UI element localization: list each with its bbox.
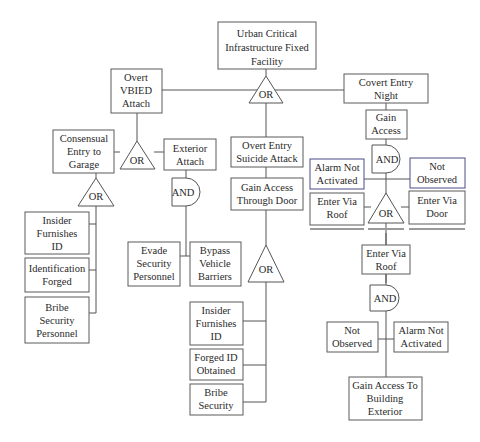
- and-gate-roof: AND: [370, 285, 399, 311]
- svg-text:Bypass: Bypass: [200, 245, 230, 256]
- svg-text:Security: Security: [40, 315, 76, 326]
- node-not-observed-upper: Not Observed: [410, 158, 465, 188]
- svg-text:Entry to: Entry to: [67, 146, 101, 157]
- and-gate-exterior: AND: [172, 178, 200, 206]
- node-exterior-attach: Exterior Attach: [164, 139, 216, 170]
- svg-text:Suicide Attack: Suicide Attack: [236, 153, 298, 164]
- node-bribe-security: Bribe Security: [190, 384, 243, 415]
- svg-text:Security: Security: [137, 258, 173, 269]
- svg-text:Infrastructure Fixed: Infrastructure Fixed: [225, 42, 309, 53]
- node-gain-access-door: Gain Access Through Door: [231, 178, 303, 210]
- node-covert-entry-night: Covert Entry Night: [344, 74, 428, 103]
- and-gate-gain-access: AND: [372, 145, 400, 173]
- or-gate-vbied: OR: [120, 141, 155, 169]
- svg-text:ID: ID: [210, 331, 221, 342]
- svg-text:Enter Via: Enter Via: [317, 196, 357, 207]
- svg-text:Facility: Facility: [251, 56, 284, 67]
- svg-text:Personnel: Personnel: [133, 271, 174, 282]
- node-gain-access-building-exterior: Gain Access To Building Exterior: [349, 377, 422, 420]
- svg-text:Access: Access: [371, 125, 401, 136]
- svg-text:OR: OR: [259, 89, 274, 100]
- svg-text:Security: Security: [199, 400, 235, 411]
- svg-text:Observed: Observed: [332, 338, 373, 349]
- node-insider-furnishes-id-middle: Insider Furnishes ID: [190, 302, 243, 345]
- svg-text:Not: Not: [344, 325, 360, 336]
- node-gain-access: Gain Access: [366, 110, 407, 139]
- node-overt-entry-suicide: Overt Entry Suicide Attack: [231, 137, 303, 167]
- svg-text:Observed: Observed: [417, 174, 458, 185]
- node-bypass-vehicle-barriers: Bypass Vehicle Barriers: [190, 242, 241, 286]
- node-consensual-entry: Consensual Entry to Garage: [53, 130, 114, 173]
- svg-text:Alarm Not: Alarm Not: [398, 325, 443, 336]
- svg-text:Not: Not: [429, 161, 445, 172]
- svg-text:Identification: Identification: [29, 263, 86, 274]
- svg-text:AND: AND: [376, 154, 399, 165]
- svg-text:Exterior: Exterior: [173, 143, 208, 154]
- svg-text:Activated: Activated: [317, 175, 359, 186]
- or-gate-enter: OR: [368, 193, 404, 223]
- node-identification-forged: Identification Forged: [25, 258, 89, 292]
- svg-text:Building: Building: [367, 393, 405, 404]
- svg-text:Roof: Roof: [376, 261, 398, 272]
- svg-text:Urban Critical: Urban Critical: [237, 28, 297, 39]
- svg-text:AND: AND: [374, 293, 397, 304]
- svg-text:Vehicle: Vehicle: [199, 258, 231, 269]
- svg-text:Attach: Attach: [176, 156, 205, 167]
- svg-text:Through Door: Through Door: [237, 195, 298, 206]
- node-evade-security-personnel: Evade Security Personnel: [128, 242, 180, 286]
- svg-text:Bribe: Bribe: [45, 302, 69, 313]
- node-enter-via-door: Enter Via Door: [409, 191, 465, 224]
- node-enter-via-roof-lower: Enter Via Roof: [362, 245, 410, 274]
- svg-text:Insider: Insider: [42, 215, 72, 226]
- node-alarm-not-activated-lower: Alarm Not Activated: [394, 322, 448, 352]
- node-overt-vbied-attach: Overt VBIED Attach: [111, 69, 162, 113]
- or-gate-door: OR: [248, 245, 284, 282]
- svg-text:Barriers: Barriers: [198, 271, 232, 282]
- svg-text:Gain Access: Gain Access: [241, 182, 293, 193]
- node-bribe-security-personnel: Bribe Security Personnel: [25, 297, 89, 343]
- svg-text:Enter Via: Enter Via: [366, 248, 406, 259]
- svg-text:Gain Access To: Gain Access To: [352, 380, 418, 391]
- svg-text:Insider: Insider: [201, 305, 231, 316]
- svg-text:OR: OR: [259, 264, 274, 275]
- node-root: Urban Critical Infrastructure Fixed Faci…: [218, 22, 316, 69]
- svg-text:OR: OR: [89, 191, 104, 202]
- svg-text:Furnishes: Furnishes: [196, 318, 237, 329]
- svg-text:Enter Via: Enter Via: [417, 195, 457, 206]
- svg-text:Covert Entry: Covert Entry: [359, 77, 414, 88]
- svg-text:Gain: Gain: [376, 112, 397, 123]
- svg-text:Personnel: Personnel: [36, 328, 77, 339]
- svg-text:Bribe: Bribe: [204, 387, 228, 398]
- svg-text:Exterior: Exterior: [368, 406, 403, 417]
- svg-text:Overt: Overt: [124, 72, 148, 83]
- svg-text:Attach: Attach: [122, 98, 151, 109]
- svg-text:Obtained: Obtained: [197, 365, 236, 376]
- svg-text:Furnishes: Furnishes: [37, 228, 78, 239]
- svg-text:Evade: Evade: [141, 245, 168, 256]
- svg-text:Consensual: Consensual: [60, 133, 108, 144]
- svg-text:VBIED: VBIED: [120, 85, 152, 96]
- node-enter-via-roof-upper: Enter Via Roof: [310, 193, 364, 225]
- svg-text:Roof: Roof: [327, 209, 349, 220]
- svg-text:AND: AND: [172, 187, 195, 198]
- attack-tree-diagram: OR OR OR AND OR AND OR AND Urban Critica…: [0, 0, 480, 442]
- svg-text:Garage: Garage: [69, 159, 100, 170]
- svg-text:Forged: Forged: [42, 276, 72, 287]
- svg-text:Forged ID: Forged ID: [194, 352, 238, 363]
- or-gate-consensual: OR: [78, 178, 114, 206]
- svg-text:Alarm Not: Alarm Not: [314, 162, 359, 173]
- node-alarm-not-activated-upper: Alarm Not Activated: [310, 159, 364, 189]
- svg-text:Activated: Activated: [401, 338, 443, 349]
- svg-text:ID: ID: [51, 241, 62, 252]
- svg-text:Night: Night: [374, 90, 398, 101]
- svg-text:Overt Entry: Overt Entry: [242, 140, 293, 151]
- node-forged-id-obtained: Forged ID Obtained: [190, 349, 243, 380]
- svg-text:Door: Door: [426, 208, 448, 219]
- node-not-observed-lower: Not Observed: [327, 322, 378, 352]
- node-insider-furnishes-id-left: Insider Furnishes ID: [25, 212, 89, 254]
- svg-text:OR: OR: [130, 155, 145, 166]
- svg-text:OR: OR: [379, 208, 394, 219]
